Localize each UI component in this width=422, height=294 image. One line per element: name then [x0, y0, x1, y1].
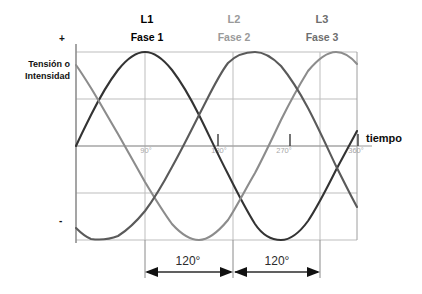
plot-canvas	[0, 0, 422, 294]
axis-lines	[76, 44, 372, 243]
x-axis-ticks	[218, 134, 358, 146]
three-phase-waveform-figure: L1 Fase 1 L2 Fase 2 L3 Fase 3 Tensión o …	[0, 0, 422, 294]
dimension-arrow-left	[145, 267, 233, 277]
dimension-arrow-right	[234, 267, 320, 277]
